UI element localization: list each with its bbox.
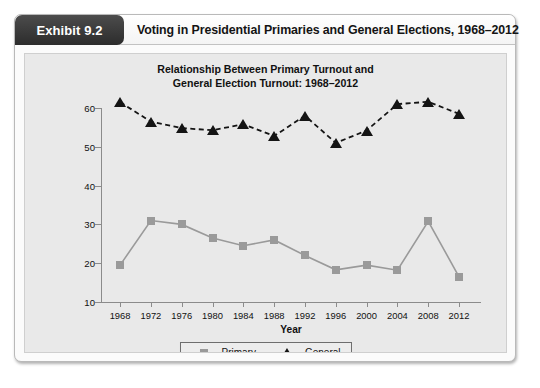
x-tick-mark (336, 302, 337, 307)
y-axis-title-holder: Turnout Percentage (47, 108, 61, 302)
exhibit-title: Voting in Presidential Primaries and Gen… (137, 15, 519, 45)
series-lines (101, 108, 480, 302)
primary-line (120, 221, 459, 277)
data-point-primary-1976 (178, 220, 186, 228)
y-tick-label: 50 (69, 141, 95, 152)
x-tick-mark (305, 302, 306, 307)
x-tick-mark (274, 302, 275, 307)
x-axis-title: Year (101, 324, 481, 335)
x-tick-mark (243, 302, 244, 307)
legend-entry-general: General (274, 347, 341, 354)
y-tick-label: 10 (69, 297, 95, 308)
data-point-general-1968 (114, 97, 126, 107)
data-point-primary-2000 (363, 261, 371, 269)
data-point-general-1996 (330, 138, 342, 148)
chart-title-line-2: General Election Turnout: 1968–2012 (25, 77, 506, 91)
y-tick-label: 20 (69, 258, 95, 269)
data-point-general-1972 (145, 117, 157, 127)
data-point-primary-1988 (270, 236, 278, 244)
legend-entry-primary: Primary (190, 347, 255, 354)
x-tick-mark (151, 302, 152, 307)
x-axis-line (101, 302, 481, 303)
data-point-primary-1980 (209, 234, 217, 242)
legend-label-general: General (305, 347, 341, 354)
data-point-general-1976 (176, 123, 188, 133)
exhibit-figure: Exhibit 9.2 Voting in Presidential Prima… (0, 0, 540, 388)
y-tick-label: 30 (69, 219, 95, 230)
y-tick-label: 40 (69, 180, 95, 191)
y-tick-label: 60 (69, 103, 95, 114)
primary-series-icon (190, 347, 216, 354)
data-point-general-2012 (453, 109, 465, 119)
data-point-primary-1992 (301, 251, 309, 259)
data-point-general-1992 (299, 111, 311, 121)
data-point-general-2004 (391, 99, 403, 109)
data-point-general-2008 (422, 97, 434, 107)
data-point-general-1984 (237, 119, 249, 129)
x-tick-mark (459, 302, 460, 307)
legend-label-primary: Primary (221, 347, 255, 354)
x-tick-mark (367, 302, 368, 307)
plot-area (101, 108, 480, 302)
data-point-primary-2008 (424, 217, 432, 225)
data-point-primary-1972 (147, 217, 155, 225)
x-tick-mark (120, 302, 121, 307)
x-tick-mark (428, 302, 429, 307)
data-point-general-1980 (207, 125, 219, 135)
general-line (120, 102, 459, 143)
x-tick-mark (397, 302, 398, 307)
exhibit-card: Exhibit 9.2 Voting in Presidential Prima… (14, 14, 516, 362)
data-point-general-2000 (361, 126, 373, 136)
data-point-primary-1984 (239, 242, 247, 250)
exhibit-header: Exhibit 9.2 Voting in Presidential Prima… (15, 15, 515, 45)
chart-title-line-1: Relationship Between Primary Turnout and (25, 63, 506, 77)
exhibit-number-tab: Exhibit 9.2 (15, 15, 124, 45)
x-tick-label: 2012 (439, 310, 479, 321)
data-point-primary-1968 (116, 261, 124, 269)
data-point-primary-2012 (455, 273, 463, 281)
chart-legend: Primary General (179, 342, 351, 353)
data-point-primary-1996 (332, 266, 340, 274)
x-tick-mark (213, 302, 214, 307)
x-tick-mark (182, 302, 183, 307)
data-point-primary-2004 (393, 266, 401, 274)
general-series-icon (274, 347, 300, 354)
chart-panel: Relationship Between Primary Turnout and… (24, 53, 507, 353)
data-point-general-1988 (268, 131, 280, 141)
chart-title: Relationship Between Primary Turnout and… (25, 63, 506, 90)
